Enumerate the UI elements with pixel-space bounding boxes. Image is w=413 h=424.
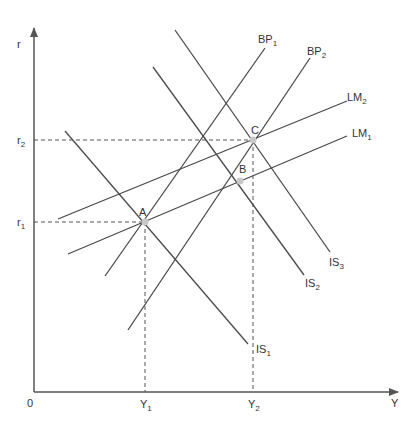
is1-label: IS1 <box>256 343 271 358</box>
point-b-label: B <box>239 163 246 175</box>
is1-curve <box>65 131 248 344</box>
bp2-label: BP2 <box>307 45 327 60</box>
point-a-label: A <box>139 206 147 218</box>
point-c-label: C <box>251 124 259 136</box>
origin-label: 0 <box>27 397 33 409</box>
y-axis-label: r <box>17 38 21 50</box>
lm2-curve <box>58 101 347 219</box>
y1-label: Y1 <box>140 398 152 413</box>
point-c-marker <box>250 137 257 144</box>
bp2-curve <box>128 58 310 330</box>
lm1-curve <box>68 136 347 254</box>
point-a-marker <box>142 219 149 226</box>
lm2-label: LM2 <box>347 91 367 106</box>
point-b-marker <box>237 178 244 185</box>
is2-label: IS2 <box>305 277 320 292</box>
is-lm-bp-diagram: r Y 0 r2 r1 Y1 Y2 IS1 IS2 IS3 LM1 LM2 BP… <box>0 0 413 424</box>
lm1-label: LM1 <box>352 127 372 142</box>
y2-label: Y2 <box>248 398 260 413</box>
r2-label: r2 <box>17 134 26 149</box>
r1-label: r1 <box>17 216 26 231</box>
x-axis-label: Y <box>391 397 399 409</box>
is3-label: IS3 <box>329 256 344 271</box>
bp1-label: BP1 <box>258 33 278 48</box>
